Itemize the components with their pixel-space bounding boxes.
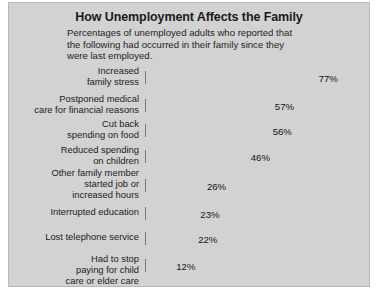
- bar-category-label-line: Reduced spending: [9, 144, 139, 155]
- chart-title: How Unemployment Affects the Family: [9, 10, 369, 25]
- bar-category-label: Interrupted education: [9, 206, 139, 217]
- bar-category-label-line: paying for child: [9, 264, 139, 275]
- bar: 23%: [145, 207, 195, 220]
- bar-category-label-line: on children: [9, 155, 139, 166]
- bar-category-label-line: Increased: [9, 65, 139, 76]
- bar-fill: [145, 232, 146, 245]
- bar: 12%: [145, 259, 171, 272]
- bar-category-label: Lost telephone service: [9, 231, 139, 242]
- bar-category-label-line: increased hours: [9, 189, 139, 200]
- bar-category-label-line: started job or: [9, 178, 139, 189]
- bar-value-label: 12%: [176, 260, 195, 271]
- bar-category-label-line: Lost telephone service: [9, 231, 139, 242]
- bar-value-label: 46%: [251, 151, 270, 162]
- bar: 57%: [145, 99, 270, 112]
- bar-value-label: 77%: [319, 72, 338, 83]
- bar-fill: [145, 207, 146, 220]
- bar-category-label-line: family stress: [9, 76, 139, 87]
- bar: 26%: [145, 179, 202, 192]
- bar-fill: [145, 150, 146, 163]
- bar-value-label: 57%: [275, 100, 294, 111]
- bar-value-label: 23%: [200, 208, 219, 219]
- bar-category-label: Had to stoppaying for childcare or elder…: [9, 253, 139, 286]
- bar-fill: [145, 259, 146, 272]
- bar-category-label-line: care for financial reasons: [9, 104, 139, 115]
- bar-value-label: 22%: [198, 233, 217, 244]
- bar-fill: [145, 179, 146, 192]
- chart-panel: How Unemployment Affects the Family Perc…: [8, 2, 370, 287]
- chart-subtitle: Percentages of unemployed adults who rep…: [9, 27, 369, 62]
- bar-category-label-line: Postponed medical: [9, 93, 139, 104]
- bar-category-label: Other family memberstarted job orincreas…: [9, 167, 139, 200]
- bar-category-label: Postponed medicalcare for financial reas…: [9, 93, 139, 115]
- bar-category-label-line: Had to stop: [9, 253, 139, 264]
- bar-category-label-line: Cut back: [9, 118, 139, 129]
- bar: 77%: [145, 71, 314, 84]
- bar-value-label: 26%: [207, 180, 226, 191]
- bar: 56%: [145, 124, 268, 137]
- bar-category-label-line: Interrupted education: [9, 206, 139, 217]
- bar-category-label-line: Other family member: [9, 167, 139, 178]
- bar-category-label: Increasedfamily stress: [9, 65, 139, 87]
- bar-value-label: 56%: [273, 125, 292, 136]
- bar-category-label-line: spending on food: [9, 129, 139, 140]
- bar-category-label: Reduced spendingon children: [9, 144, 139, 166]
- bar-category-label-line: care or elder care: [9, 275, 139, 286]
- bar: 46%: [145, 150, 246, 163]
- bar: 22%: [145, 232, 193, 245]
- bar-fill: [145, 99, 146, 112]
- bar-fill: [145, 124, 146, 137]
- chart-header: How Unemployment Affects the Family Perc…: [9, 3, 369, 62]
- bar-category-label: Cut backspending on food: [9, 118, 139, 140]
- bar-fill: [145, 71, 146, 84]
